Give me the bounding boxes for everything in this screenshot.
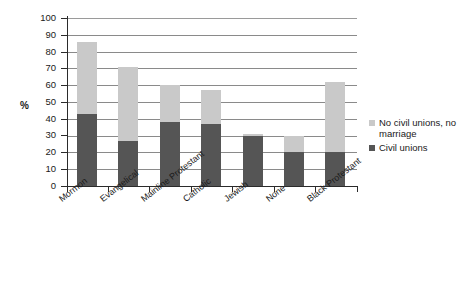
legend-label-civil-unions: Civil unions [379, 142, 428, 153]
x-tick-mark-7 [357, 186, 358, 192]
y-tick-label-30: 30 [30, 130, 56, 140]
legend: No civil unions, no marriage Civil union… [369, 117, 475, 156]
legend-swatch-icon-civil-unions [369, 145, 375, 151]
y-tick-label-40: 40 [30, 114, 56, 124]
stacked-bar-chart: % 100 90 80 70 60 50 40 30 20 10 0 [0, 0, 475, 281]
plot-area [67, 18, 357, 186]
bar-segment-civil-unions [77, 114, 97, 186]
bar-segment-no-civil-unions [77, 42, 97, 114]
y-tick-label-70: 70 [30, 63, 56, 73]
gridline-100 [67, 18, 357, 19]
bar-segment-no-civil-unions [118, 67, 138, 141]
y-tick-label-80: 80 [30, 47, 56, 57]
legend-label-no-civil-unions: No civil unions, no marriage [379, 117, 475, 139]
bar-group-catholic[interactable] [201, 90, 221, 186]
y-tick-label-0: 0 [30, 181, 56, 191]
bar-segment-civil-unions [243, 136, 263, 186]
bar-group-mormon[interactable] [77, 42, 97, 186]
gridline-80 [67, 52, 357, 53]
bar-group-none[interactable] [284, 136, 304, 186]
y-tick-label-10: 10 [30, 164, 56, 174]
y-axis-title: % [20, 100, 29, 111]
bar-segment-no-civil-unions [325, 82, 345, 153]
y-tick-label-90: 90 [30, 30, 56, 40]
gridline-60 [67, 85, 357, 86]
bar-segment-no-civil-unions [284, 136, 304, 153]
y-axis-line [67, 16, 68, 188]
bar-segment-no-civil-unions [201, 90, 221, 124]
legend-swatch-icon-no-civil-unions [369, 120, 375, 126]
y-tick-label-50: 50 [30, 97, 56, 107]
bar-segment-no-civil-unions [160, 85, 180, 122]
y-tick-label-60: 60 [30, 80, 56, 90]
legend-item-no-civil-unions[interactable]: No civil unions, no marriage [369, 117, 475, 139]
legend-item-civil-unions[interactable]: Civil unions [369, 142, 475, 153]
gridline-90 [67, 35, 357, 36]
bar-group-jewish[interactable] [243, 134, 263, 186]
gridline-70 [67, 68, 357, 69]
bar-segment-civil-unions [284, 152, 304, 186]
y-tick-label-100: 100 [30, 13, 56, 23]
y-tick-label-20: 20 [30, 147, 56, 157]
